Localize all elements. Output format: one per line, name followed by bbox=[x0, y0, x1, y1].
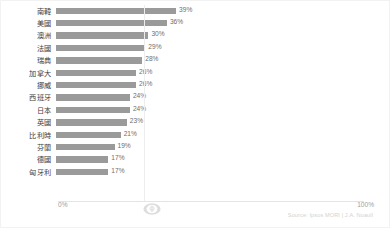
bar-track: 39% bbox=[56, 5, 364, 17]
x-axis-tick-max: 100% bbox=[357, 202, 374, 209]
bar-track: 28% bbox=[56, 55, 364, 67]
bar-value-label: 23% bbox=[130, 118, 143, 125]
bar-track: 36% bbox=[56, 17, 364, 29]
bar bbox=[56, 45, 145, 51]
bar-category-label: 德國 bbox=[1, 156, 56, 163]
bar bbox=[56, 20, 167, 26]
bar bbox=[56, 119, 127, 125]
bar-chart-card: 南韓39%美國36%澳洲30%法國29%瑞典28%加拿大26%挪威26%西班牙2… bbox=[0, 0, 390, 228]
bar-category-label: 英國 bbox=[1, 119, 56, 126]
bar-category-label: 澳洲 bbox=[1, 32, 56, 39]
bar bbox=[56, 70, 136, 76]
bar-value-label: 36% bbox=[170, 19, 183, 26]
bar-row: 匈牙利17% bbox=[1, 166, 390, 178]
bar-row: 澳洲30% bbox=[1, 30, 390, 42]
gem-watermark-icon bbox=[142, 202, 162, 216]
bar-value-label: 29% bbox=[148, 44, 161, 51]
bar-row: 比利時21% bbox=[1, 129, 390, 141]
bar-category-label: 日本 bbox=[1, 107, 56, 114]
bar-category-label: 匈牙利 bbox=[1, 169, 56, 176]
bar-value-label: 21% bbox=[124, 131, 137, 138]
bar-track: 19% bbox=[56, 141, 364, 153]
bar bbox=[56, 144, 115, 150]
bar-row: 瑞典28% bbox=[1, 55, 390, 67]
bar-value-label: 26% bbox=[139, 81, 152, 88]
x-axis-tick-min: 0% bbox=[58, 202, 68, 209]
bar bbox=[56, 94, 130, 100]
bar-value-label: 17% bbox=[111, 168, 124, 175]
bar-value-label: 19% bbox=[118, 143, 131, 150]
bar bbox=[56, 132, 121, 138]
bar bbox=[56, 8, 176, 14]
bar-category-label: 法國 bbox=[1, 45, 56, 52]
bar-row: 美國36% bbox=[1, 17, 390, 29]
source-note: Source: Ipsos MORI | J.A. Noaull bbox=[288, 213, 373, 219]
bar-row: 法國29% bbox=[1, 42, 390, 54]
bar-value-label: 39% bbox=[179, 7, 192, 14]
chart-plot-area: 南韓39%美國36%澳洲30%法國29%瑞典28%加拿大26%挪威26%西班牙2… bbox=[1, 5, 390, 195]
bar-track: 24% bbox=[56, 92, 364, 104]
bar-value-label: 28% bbox=[145, 56, 158, 63]
bar-row: 德國17% bbox=[1, 154, 390, 166]
bar-track: 26% bbox=[56, 79, 364, 91]
bar-track: 30% bbox=[56, 30, 364, 42]
bar-value-label: 17% bbox=[111, 155, 124, 162]
bar bbox=[56, 57, 142, 63]
bar-track: 17% bbox=[56, 166, 364, 178]
bar-track: 26% bbox=[56, 67, 364, 79]
plot-boundary-line bbox=[144, 5, 145, 201]
bar bbox=[56, 169, 108, 175]
bar-category-label: 芬蘭 bbox=[1, 144, 56, 151]
bar-category-label: 比利時 bbox=[1, 132, 56, 139]
bar-track: 17% bbox=[56, 154, 364, 166]
bar bbox=[56, 32, 148, 38]
bar-row: 南韓39% bbox=[1, 5, 390, 17]
bar-track: 29% bbox=[56, 42, 364, 54]
bar-row: 加拿大26% bbox=[1, 67, 390, 79]
bar-value-label: 26% bbox=[139, 69, 152, 76]
bar-category-label: 西班牙 bbox=[1, 94, 56, 101]
bar bbox=[56, 107, 130, 113]
bar-row: 挪威26% bbox=[1, 79, 390, 91]
bar-category-label: 瑞典 bbox=[1, 57, 56, 64]
bar-row: 英國23% bbox=[1, 117, 390, 129]
bar-track: 21% bbox=[56, 129, 364, 141]
bar-row: 日本24% bbox=[1, 104, 390, 116]
bar bbox=[56, 82, 136, 88]
bar-row: 西班牙24% bbox=[1, 92, 390, 104]
bar-category-label: 加拿大 bbox=[1, 70, 56, 77]
bar bbox=[56, 156, 108, 162]
bar-track: 24% bbox=[56, 104, 364, 116]
bar-value-label: 30% bbox=[151, 31, 164, 38]
bar-category-label: 美國 bbox=[1, 20, 56, 27]
bar-category-label: 挪威 bbox=[1, 82, 56, 89]
bar-category-label: 南韓 bbox=[1, 8, 56, 15]
bar-row: 芬蘭19% bbox=[1, 141, 390, 153]
bar-track: 23% bbox=[56, 117, 364, 129]
